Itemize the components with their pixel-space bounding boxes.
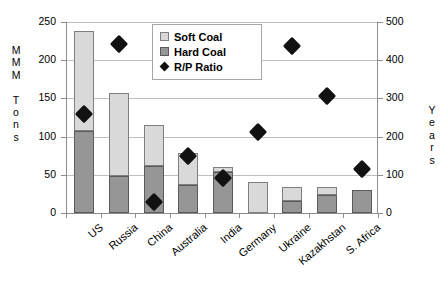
hard-coal-segment (109, 176, 129, 213)
soft-coal-segment (317, 187, 337, 195)
hard-coal-swatch (160, 47, 169, 56)
axis-title-char: a (424, 129, 440, 141)
axis-title-char: n (8, 118, 24, 130)
legend-item: Soft Coal (160, 29, 255, 44)
rp-ratio-marker (110, 35, 128, 53)
legend-item: Hard Coal (160, 44, 255, 59)
bar-s-africa (352, 190, 372, 213)
axis-title-char: s (424, 154, 440, 166)
y-axis-right-tick-label: 500 (386, 16, 426, 26)
y-axis-left-tick-label: 50 (16, 169, 56, 179)
rp-ratio-marker (318, 87, 336, 105)
y-axis-left-tick-label: 200 (16, 54, 56, 64)
hard-coal-segment (352, 190, 372, 213)
y-axis-right-tick-label: 400 (386, 54, 426, 64)
y-axis-right-tick-label: 0 (386, 207, 426, 217)
hard-coal-segment (317, 195, 337, 213)
hard-coal-segment (74, 131, 94, 214)
axis-title-char: e (424, 116, 440, 128)
y-axis-left-tick-label: 100 (16, 131, 56, 141)
y-axis-left-tick-label: 150 (16, 92, 56, 102)
y-axis-right-tick (378, 137, 383, 138)
y-axis-title-right: Years (424, 104, 440, 166)
axis-title-char: M (8, 69, 24, 81)
x-axis-line (66, 213, 378, 214)
y-axis-right-tick (378, 98, 383, 99)
rp-ratio-marker (352, 160, 370, 178)
hard-coal-segment (282, 201, 302, 213)
y-axis-right-tick-label: 300 (386, 92, 426, 102)
y-axis-right-tick-label: 100 (386, 169, 426, 179)
y-axis-right-tick (378, 22, 383, 23)
soft-coal-segment (109, 93, 129, 176)
y-axis-right-tick-label: 200 (386, 131, 426, 141)
y-axis-right-tick (378, 60, 383, 61)
legend-item: R/P Ratio (160, 59, 255, 74)
x-axis-tick (378, 213, 379, 218)
bar-russia (109, 93, 129, 213)
axis-title-char: r (424, 141, 440, 153)
rp-ratio-diamond (160, 62, 170, 72)
soft-coal-segment (144, 125, 164, 165)
bar-ukraine (282, 187, 302, 213)
axis-title-char: o (8, 106, 24, 118)
bar-germany (248, 182, 268, 213)
soft-coal-segment (282, 187, 302, 201)
bar-kazakhstan (317, 187, 337, 213)
legend-item-label: R/P Ratio (174, 61, 223, 73)
legend-item-label: Hard Coal (174, 46, 226, 58)
rp-ratio-marker (248, 123, 266, 141)
rp-ratio-marker (283, 37, 301, 55)
y-axis-left-tick-label: 0 (16, 207, 56, 217)
soft-coal-swatch (160, 32, 169, 41)
chart-legend: Soft CoalHard CoalR/P Ratio (152, 24, 262, 80)
coal-reserves-chart: MMM Tons Years 250200150100500 500400300… (0, 0, 448, 292)
axis-title-char: Y (424, 104, 440, 116)
gridline (67, 22, 377, 23)
soft-coal-segment (248, 182, 268, 213)
hard-coal-segment (178, 185, 198, 213)
y-axis-left-tick-label: 250 (16, 16, 56, 26)
y-axis-right-tick (378, 175, 383, 176)
legend-item-label: Soft Coal (174, 31, 222, 43)
